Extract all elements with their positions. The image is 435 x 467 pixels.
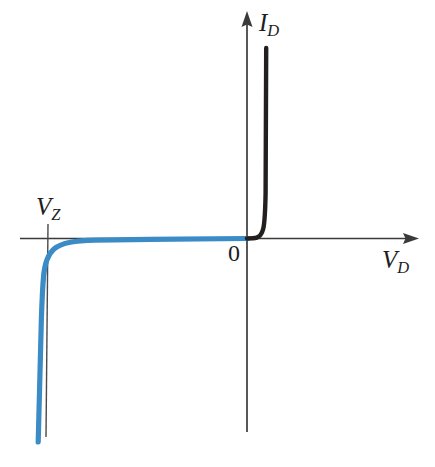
zener-voltage-label: VZ [36,194,60,224]
voltage-axis-label-subscript: D [397,258,409,277]
current-axis-label: ID [259,10,279,40]
origin-label: 0 [228,241,240,265]
zener-iv-characteristic-figure: ID VD VZ 0 [0,0,435,467]
reverse-breakdown-curve [38,239,247,443]
current-axis-label-subscript: D [267,21,279,40]
zener-voltage-label-main: V [36,193,51,220]
plot-canvas [0,0,435,467]
voltage-axis-label-main: V [382,246,397,273]
voltage-axis-label: VD [382,247,409,277]
current-axis [242,11,253,432]
forward-conduction-curve [247,48,266,239]
zener-voltage-label-subscript: Z [51,205,60,224]
